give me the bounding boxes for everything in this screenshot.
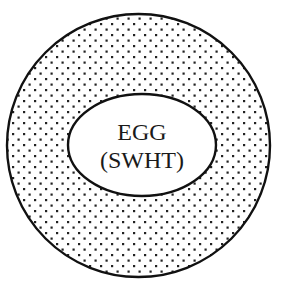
inner-egg-ellipse: [68, 94, 216, 196]
egg-diagram: EGG (SWHT): [0, 0, 286, 292]
swht-label: (SWHT): [100, 147, 184, 173]
egg-label: EGG: [117, 119, 166, 145]
